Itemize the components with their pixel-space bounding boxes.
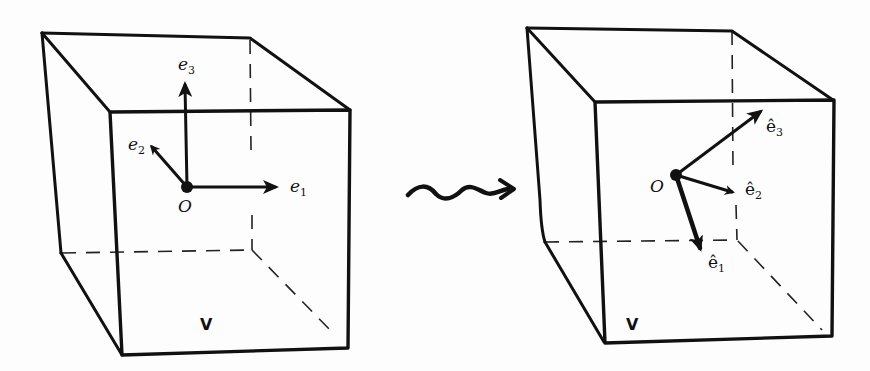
left-hidden-diagonal	[252, 250, 335, 335]
right-origin-label: O	[650, 178, 664, 195]
left-label-e1: e1	[290, 178, 307, 198]
left-origin-point	[181, 181, 193, 193]
diagram-svg	[0, 0, 870, 371]
left-top-left-edge	[42, 33, 110, 112]
left-label-e3: e3	[178, 56, 195, 76]
right-cube	[527, 28, 834, 343]
left-hidden-vertical-top	[250, 40, 251, 150]
left-vector-e3-arrow	[185, 85, 187, 187]
left-volume-label: V	[200, 317, 212, 333]
right-top-back-edges	[527, 28, 833, 100]
transition-arrow	[408, 180, 514, 198]
left-front-face	[110, 110, 350, 355]
right-vector-e1-arrow	[676, 175, 700, 248]
right-label-e2-hat: ê2	[745, 181, 762, 201]
left-bottom-left-edge	[61, 253, 122, 355]
right-hidden-horizontal	[545, 240, 737, 242]
right-vector-e2-arrow	[676, 175, 732, 192]
left-vector-e2-arrow	[152, 147, 187, 187]
left-top-back-edges	[42, 33, 350, 110]
right-top-left-edge	[527, 28, 595, 102]
diagram-canvas: e3 e2 e1 O V ê3 ê2 ê1 O V	[0, 0, 870, 371]
left-origin-label: O	[178, 198, 192, 215]
wavy-arrow-icon	[408, 187, 508, 199]
left-hidden-horizontal	[62, 250, 252, 253]
right-vector-e3-arrow	[676, 112, 760, 175]
right-back-vertical-edge	[527, 28, 545, 242]
right-hidden-diagonal	[738, 241, 822, 330]
left-label-e2: e2	[128, 136, 145, 156]
right-front-face	[595, 100, 834, 343]
right-bottom-left-edge	[545, 242, 604, 342]
right-volume-label: V	[626, 317, 638, 333]
left-back-vertical-edge	[42, 33, 61, 253]
right-label-e3-hat: ê3	[766, 118, 783, 138]
right-hidden-vertical-bottom	[736, 205, 737, 240]
right-label-e1-hat: ê1	[708, 254, 725, 274]
right-origin-point	[670, 169, 682, 181]
